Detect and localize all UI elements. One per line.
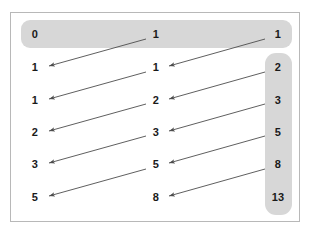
value-middle-5: 8 — [145, 191, 167, 203]
value-right-3: 5 — [267, 126, 289, 138]
value-right-0: 1 — [267, 28, 289, 40]
value-middle-3: 3 — [145, 126, 167, 138]
diagram-canvas: 0 1 1 2 3 5 1 1 2 3 5 8 1 2 3 5 8 13 — [0, 0, 312, 236]
value-left-0: 0 — [24, 28, 46, 40]
value-left-1: 1 — [24, 61, 46, 73]
value-middle-4: 5 — [145, 158, 167, 170]
value-right-2: 3 — [267, 94, 289, 106]
value-left-3: 2 — [24, 126, 46, 138]
value-middle-0: 1 — [145, 28, 167, 40]
value-middle-2: 2 — [145, 94, 167, 106]
value-middle-1: 1 — [145, 61, 167, 73]
value-left-5: 5 — [24, 191, 46, 203]
value-right-1: 2 — [267, 61, 289, 73]
value-right-4: 8 — [267, 158, 289, 170]
value-right-5: 13 — [267, 191, 289, 203]
value-left-4: 3 — [24, 158, 46, 170]
value-left-2: 1 — [24, 94, 46, 106]
